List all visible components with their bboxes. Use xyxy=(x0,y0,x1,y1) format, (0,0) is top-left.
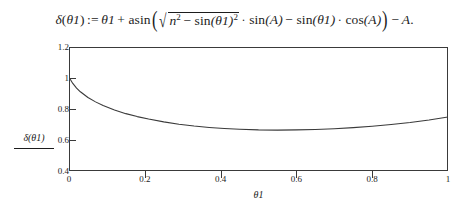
y-tick-mark xyxy=(69,140,76,141)
x-tick-label: 0 xyxy=(49,175,89,184)
y-tick-label: 1.2 xyxy=(42,43,69,52)
formula-minus-2: − xyxy=(389,12,402,28)
formula-radical-minus: − xyxy=(181,13,194,28)
formula-cos-A-arg: (A) xyxy=(364,12,382,28)
radical-body: n2−sin(θ1)2 xyxy=(168,12,239,29)
formula-assign-operator: := xyxy=(85,12,102,28)
formula-tail-A: A xyxy=(402,12,410,28)
y-axis-label: δ(θ1) xyxy=(12,132,56,143)
plot-figure: 0.40.60.811.2 00.20.40.60.81 δ(θ1) θ1 xyxy=(0,38,469,204)
radical-sign-icon: √ xyxy=(159,11,167,30)
formula-big-paren-close: ) xyxy=(382,14,388,27)
x-tick-mark xyxy=(372,171,373,178)
formula-sin-A: sin xyxy=(248,12,265,28)
formula-minus-1: − xyxy=(283,12,296,28)
formula-period: . xyxy=(410,12,413,28)
formula-asin-operator: asin xyxy=(127,12,150,28)
formula-sin-theta-arg: (θ1) xyxy=(313,12,336,28)
formula-cdot-2: · xyxy=(335,13,344,28)
formula-theta1-term: θ1 xyxy=(101,12,115,28)
formula-sin-radical-exponent: 2 xyxy=(233,11,238,21)
x-tick-mark xyxy=(145,171,146,178)
formula-sin-theta: sin xyxy=(295,12,312,28)
formula-theta1-lhs: θ1 xyxy=(66,12,80,28)
formula-plus-operator: + xyxy=(115,12,128,28)
formula-expression: δ(θ1) := θ1 + asin ( √ n2−sin(θ1)2 · sin… xyxy=(0,0,469,40)
x-tick-label: 1 xyxy=(428,175,468,184)
formula-cdot-1: · xyxy=(239,13,248,28)
formula-sin-radical-arg: (θ1) xyxy=(211,13,234,28)
y-tick-label-text: 1.2 xyxy=(45,43,69,52)
y-tick-label-text: 1 xyxy=(45,74,69,83)
formula-radical: √ n2−sin(θ1)2 xyxy=(159,12,239,29)
y-axis-label-rule xyxy=(14,148,54,149)
x-tick-mark xyxy=(296,171,297,178)
formula-big-paren-open: ( xyxy=(152,14,158,27)
formula-sin-radical: sin xyxy=(194,13,211,28)
data-curve xyxy=(69,77,448,130)
curve-plot xyxy=(69,47,448,171)
y-tick-label-text: 0.8 xyxy=(45,105,69,114)
formula-sin-A-arg: (A) xyxy=(265,12,283,28)
y-tick-mark xyxy=(69,78,76,79)
formula-cos-A: cos xyxy=(344,12,363,28)
y-tick-mark xyxy=(69,109,76,110)
y-tick-label: 1 xyxy=(42,74,69,83)
x-tick-mark xyxy=(221,171,222,178)
y-tick-label: 0.8 xyxy=(42,105,69,114)
x-axis-label: θ1 xyxy=(69,189,448,200)
